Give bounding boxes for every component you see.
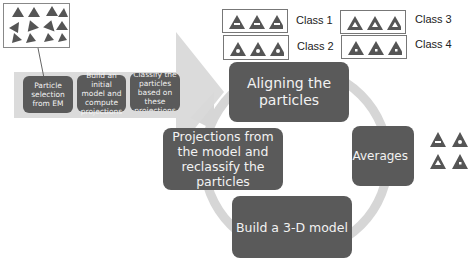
class-2-triangles-icon — [228, 39, 284, 57]
particle-image-panel — [3, 3, 70, 48]
class-4-box — [341, 35, 407, 59]
class-4-label: Class 4 — [415, 38, 452, 50]
step-build-initial-model: Build an initial model and compute proje… — [77, 75, 126, 112]
class-average-triangles-icon — [428, 128, 472, 172]
class-3-triangles-icon — [345, 13, 401, 31]
step-particle-selection: Particle selection from EM — [23, 76, 73, 113]
projections-reclassify-box: Projections from the model and reclassif… — [163, 128, 283, 190]
class-4-triangles-icon — [346, 38, 402, 56]
class-1-box — [222, 9, 288, 33]
class-averages-box: Class Averages — [352, 126, 414, 186]
class-1-triangles-icon — [227, 12, 283, 30]
particle-triangles-icon — [4, 4, 69, 47]
class-3-box — [340, 10, 406, 34]
step-classify-particles: Classify the particles based on these pr… — [130, 73, 180, 111]
class-1-label: Class 1 — [296, 14, 333, 26]
class-2-label: Class 2 — [297, 40, 334, 52]
class-2-box — [223, 35, 289, 60]
class-3-label: Class 3 — [415, 13, 452, 25]
build-3d-model-box: Build a 3-D model — [232, 196, 352, 258]
aligning-particles-box: Aligning the particles — [229, 62, 349, 122]
